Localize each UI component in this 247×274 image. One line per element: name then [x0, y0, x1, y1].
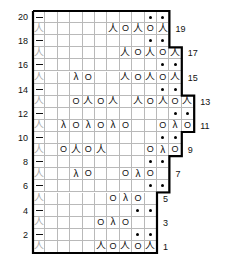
yarn-over-icon: O: [147, 24, 154, 33]
cell-r12-c10: [145, 108, 157, 120]
cell-k2tog-r15-c12: 人: [169, 72, 181, 84]
cell-ssk-r11-c12: λ: [169, 120, 181, 132]
cell-ssk-r5-c8: λ: [120, 193, 132, 205]
right-decrease-icon: 人: [145, 72, 155, 82]
right-decrease-icon: 人: [34, 144, 44, 154]
cell-r14-c2: [45, 84, 57, 96]
cell-r20-c7: [107, 11, 119, 23]
cell-yo-r7-c8: O: [120, 168, 132, 180]
cell-r18-c3: [58, 35, 70, 47]
bead-dot-icon: [174, 136, 177, 139]
cell-r12-c4: [70, 108, 82, 120]
yarn-over-icon: O: [122, 120, 129, 129]
cell-r8-c4: [70, 156, 82, 168]
cell-k2tog-r11-c1: 人: [33, 120, 45, 132]
cell-r11-c10: [145, 120, 157, 132]
purl-dash-icon: [36, 17, 43, 18]
cell-r4-c7: [107, 205, 119, 217]
cell-k2tog-r19-c7: 人: [107, 23, 119, 35]
right-decrease-icon: 人: [96, 144, 106, 154]
cell-r18-c8: [120, 35, 132, 47]
cell-dot-r8-c11: [157, 156, 169, 168]
cell-dash-r10-c1: [33, 132, 45, 144]
yarn-over-icon: O: [85, 169, 92, 178]
cell-r17-c4: [70, 47, 82, 59]
yarn-over-icon: O: [60, 145, 67, 154]
cell-r7-c11: [157, 168, 169, 180]
cell-r3-c2: [45, 217, 57, 229]
row-number-18: 18: [6, 35, 28, 47]
yarn-over-icon: O: [147, 96, 154, 105]
cell-r20-c8: [120, 11, 132, 23]
cell-yo-r9-c3: O: [58, 144, 70, 156]
purl-dash-icon: [36, 113, 43, 114]
cell-r7-c6: [95, 168, 107, 180]
cell-k2tog-r19-c11: 人: [157, 23, 169, 35]
cell-r20-c6: [95, 11, 107, 23]
cell-yo-r13-c12: O: [169, 96, 181, 108]
bead-dot-icon: [149, 16, 152, 19]
cell-yo-r7-c10: O: [145, 168, 157, 180]
cell-r16-c2: [45, 59, 57, 71]
cell-dash-r12-c1: [33, 108, 45, 120]
cell-r18-c4: [70, 35, 82, 47]
right-decrease-icon: 人: [34, 193, 44, 203]
cell-r5-c6: [95, 193, 107, 205]
cell-r18-c9: [132, 35, 144, 47]
cell-k2tog-r17-c10: 人: [145, 47, 157, 59]
yarn-over-icon: O: [134, 72, 141, 81]
cell-dot-r20-c10: [145, 11, 157, 23]
cell-r7-c2: [45, 168, 57, 180]
cell-r17-c6: [95, 47, 107, 59]
cell-yo-r11-c6: O: [95, 120, 107, 132]
row-number-10: 10: [6, 132, 28, 144]
cell-r20-c5: [83, 11, 95, 23]
cell-r12-c9: [132, 108, 144, 120]
cell-r12-c3: [58, 108, 70, 120]
cell-r3-c3: [58, 217, 70, 229]
cell-r9-c2: [45, 144, 57, 156]
cell-r18-c7: [107, 35, 119, 47]
purl-dash-icon: [36, 185, 43, 186]
cell-k2tog-r19-c9: 人: [132, 23, 144, 35]
cell-k2tog-r5-c1: 人: [33, 193, 45, 205]
cell-r8-c9: [132, 156, 144, 168]
right-decrease-icon: 人: [182, 96, 192, 106]
cell-yo-r9-c12: O: [169, 144, 181, 156]
yarn-over-icon: O: [134, 48, 141, 57]
cell-r16-c5: [83, 59, 95, 71]
purl-dash-icon: [36, 64, 43, 65]
row-number-1: 1: [163, 241, 168, 253]
cell-r13-c8: [120, 96, 132, 108]
cell-r5-c10: [145, 193, 157, 205]
cell-r6-c5: [83, 180, 95, 192]
bead-dot-icon: [174, 63, 177, 66]
cell-dot-r10-c12: [169, 132, 181, 144]
left-decrease-icon: λ: [173, 120, 178, 130]
left-decrease-icon: λ: [61, 120, 66, 130]
right-decrease-icon: 人: [108, 96, 118, 106]
yarn-over-icon: O: [134, 241, 141, 250]
cell-r10-c10: [145, 132, 157, 144]
yarn-over-icon: O: [72, 120, 79, 129]
row-number-7: 7: [175, 168, 180, 180]
cell-r16-c3: [58, 59, 70, 71]
cell-k2tog-r1-c1: 人: [33, 241, 45, 253]
cell-r14-c7: [107, 84, 119, 96]
cell-k2tog-r9-c1: 人: [33, 144, 45, 156]
cell-dash-r16-c1: [33, 59, 45, 71]
bead-dot-icon: [136, 233, 139, 236]
purl-dash-icon: [36, 40, 43, 41]
yarn-over-icon: O: [97, 120, 104, 129]
cell-r14-c10: [145, 84, 157, 96]
cell-r1-c2: [45, 241, 57, 253]
right-decrease-icon: 人: [133, 96, 143, 106]
cell-yo-r13-c4: O: [70, 96, 82, 108]
cell-r10-c4: [70, 132, 82, 144]
cell-r20-c9: [132, 11, 144, 23]
cell-r1-c4: [70, 241, 82, 253]
cell-k2tog-r13-c11: 人: [157, 96, 169, 108]
cell-dash-r6-c1: [33, 180, 45, 192]
cell-k2tog-r1-c8: 人: [120, 241, 132, 253]
cell-r10-c7: [107, 132, 119, 144]
